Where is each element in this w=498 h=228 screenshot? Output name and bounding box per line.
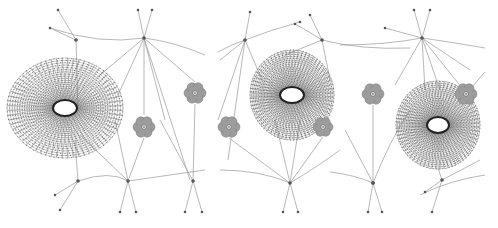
flower-submesh	[184, 83, 206, 103]
graph-node	[429, 9, 432, 12]
graph-node	[54, 194, 57, 197]
mesh-hole	[427, 117, 449, 133]
graph-node	[142, 36, 146, 40]
graph-canvas	[0, 0, 498, 228]
graph-node	[137, 9, 140, 12]
graph-node	[282, 211, 285, 214]
graph-node	[294, 23, 297, 26]
graph-node	[243, 38, 247, 42]
graph-node	[420, 36, 424, 40]
graph-node	[384, 27, 387, 30]
graph-node	[57, 9, 60, 12]
flower-submesh	[218, 117, 240, 137]
mesh-hole	[280, 87, 304, 103]
graph-node	[151, 9, 154, 12]
meshes-layer	[6, 49, 480, 169]
flower-submesh	[133, 117, 155, 137]
graph-node	[201, 211, 204, 214]
graph-node	[191, 179, 195, 183]
graph-node	[119, 211, 122, 214]
graph-node	[74, 38, 78, 42]
graph-node	[309, 14, 312, 17]
graph-node	[367, 211, 370, 214]
graph-node	[297, 211, 300, 214]
graph-node	[288, 181, 292, 185]
graph-node	[431, 211, 434, 214]
graph-node	[249, 11, 252, 14]
nodes-layer	[49, 9, 444, 214]
graph-layout-figure	[0, 0, 498, 228]
graph-node	[424, 191, 427, 194]
graph-node	[126, 179, 130, 183]
mesh-hole	[53, 100, 77, 116]
dense-mesh-cluster	[6, 57, 123, 158]
flower-submesh	[362, 84, 384, 104]
graph-node	[413, 9, 416, 12]
graph-node	[320, 38, 324, 42]
graph-node	[184, 211, 187, 214]
graph-node	[49, 27, 52, 30]
flower-submesh	[313, 118, 333, 137]
graph-node	[440, 178, 444, 182]
graph-node	[135, 211, 138, 214]
graph-node	[76, 179, 80, 183]
graph-node	[59, 209, 62, 212]
graph-node	[299, 21, 302, 24]
graph-node	[381, 211, 384, 214]
graph-node	[371, 181, 375, 185]
flower-submesh	[455, 84, 477, 104]
